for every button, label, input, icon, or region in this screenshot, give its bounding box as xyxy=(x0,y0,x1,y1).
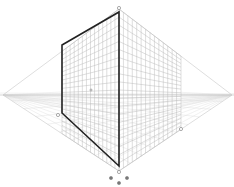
bottom-lower-handle[interactable] xyxy=(117,181,120,184)
right-wall-grid xyxy=(119,9,181,171)
bottom-left-handle[interactable] xyxy=(109,176,112,179)
bottom-center-handle[interactable] xyxy=(117,170,120,173)
right-bottom-handle[interactable] xyxy=(179,127,182,130)
ground-line xyxy=(36,95,232,116)
left-bottom-handle[interactable] xyxy=(56,113,59,116)
ground-line xyxy=(71,95,232,140)
top-handle[interactable] xyxy=(117,6,120,9)
perspective-grid-canvas[interactable] xyxy=(0,0,234,187)
center-point-handle[interactable] xyxy=(90,89,92,91)
ground-plane-grid xyxy=(0,93,234,163)
ground-line xyxy=(3,95,142,156)
ground-line xyxy=(95,95,232,155)
bottom-right-handle[interactable] xyxy=(125,176,128,179)
perspective-grid-svg xyxy=(0,0,234,187)
